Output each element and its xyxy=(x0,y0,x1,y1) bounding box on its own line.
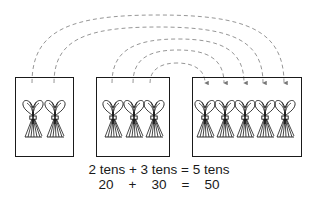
equals-sign: = xyxy=(182,178,190,192)
addend-b: 30 xyxy=(151,178,166,192)
caption-numbers: 20 + 30 = 50 xyxy=(0,178,318,192)
bundle-of-ten-icon xyxy=(103,100,123,137)
sum-value: 50 xyxy=(204,178,219,192)
group-2-tens xyxy=(16,78,74,157)
transfer-arrows xyxy=(32,15,284,83)
arc-arrow-5 xyxy=(150,63,205,83)
box-first-addend xyxy=(16,78,74,157)
group-5-tens xyxy=(193,78,302,157)
bundle-of-ten-icon xyxy=(23,100,43,137)
arc-arrow-2 xyxy=(54,27,263,83)
caption-words: 2 tens + 3 tens = 5 tens xyxy=(0,163,318,177)
bundle-of-ten-icon xyxy=(235,100,255,137)
bundle-of-ten-icon xyxy=(215,100,235,137)
bundle-of-ten-icon xyxy=(255,100,275,137)
arc-arrow-3 xyxy=(112,39,244,83)
arc-arrow-4 xyxy=(133,50,224,83)
arc-arrow-1 xyxy=(32,15,284,83)
addend-a: 20 xyxy=(99,178,114,192)
bundle-of-ten-icon xyxy=(275,100,295,137)
bundle-of-ten-icon xyxy=(195,100,215,137)
plus-sign: + xyxy=(129,178,137,192)
group-3-tens xyxy=(97,78,170,157)
bundle-of-ten-icon xyxy=(144,100,164,137)
bundle-of-ten-icon xyxy=(124,100,144,137)
bundle-of-ten-icon xyxy=(45,100,65,137)
